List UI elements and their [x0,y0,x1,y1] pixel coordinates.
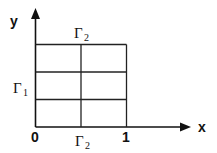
svg-text:Γ: Γ [13,80,22,96]
svg-text:Γ: Γ [74,25,83,41]
origin-label: 0 [31,129,39,145]
svg-text:1: 1 [23,87,28,98]
svg-text:Γ: Γ [75,133,84,149]
x-axis-label: x [198,119,206,135]
svg-text:2: 2 [84,32,89,43]
x-tick-label-1: 1 [122,129,130,145]
boundary-label-left: Γ 1 [13,80,28,98]
x-axis-arrow-icon [180,123,191,132]
domain-diagram: y x 0 1 Γ 2 Γ 1 Γ 2 [0,0,217,153]
grid [36,45,127,128]
y-axis-label: y [10,13,18,29]
y-axis-arrow-icon [31,8,40,19]
svg-text:2: 2 [85,140,90,151]
boundary-label-top: Γ 2 [74,25,89,43]
boundary-label-bottom: Γ 2 [75,133,90,151]
